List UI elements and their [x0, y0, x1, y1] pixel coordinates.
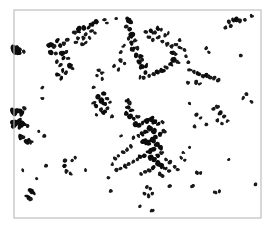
figure-root	[0, 0, 276, 235]
point-blob	[187, 68, 191, 71]
point-pattern-plot	[0, 0, 276, 235]
point-blob	[183, 159, 186, 162]
point-blob	[122, 151, 125, 154]
